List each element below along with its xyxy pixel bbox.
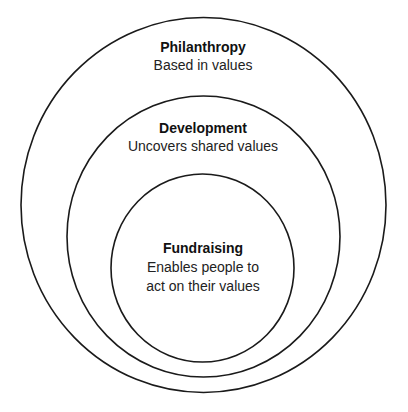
circle-fundraising: Fundraising Enables people to act on the… xyxy=(111,174,294,362)
philanthropy-title: Philanthropy xyxy=(160,39,246,55)
philanthropy-description: Based in values xyxy=(154,57,253,73)
development-description: Uncovers shared values xyxy=(128,138,278,154)
circle-development: Development Uncovers shared values xyxy=(67,96,340,377)
circle-philanthropy: Philanthropy Based in values xyxy=(21,18,386,393)
philanthropy-ring xyxy=(21,18,386,393)
fundraising-description-line-2: act on their values xyxy=(146,278,260,294)
nested-circles-diagram: Philanthropy Based in values Development… xyxy=(0,0,408,412)
development-title: Development xyxy=(159,120,247,136)
fundraising-title: Fundraising xyxy=(163,240,243,256)
fundraising-description-line-1: Enables people to xyxy=(147,259,259,275)
